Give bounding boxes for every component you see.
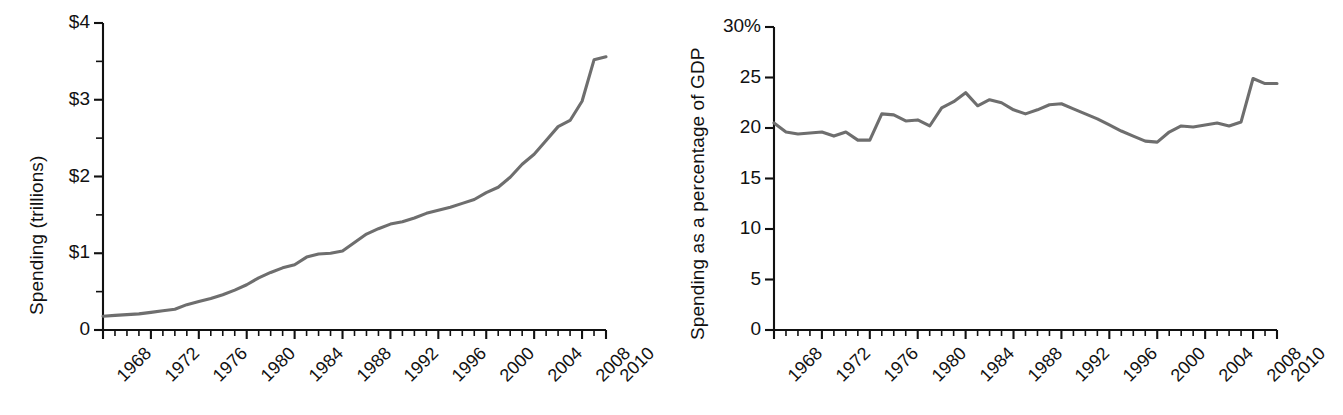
y-tick-label: $1 <box>69 241 90 263</box>
chart-panel-spending-pct-gdp: Spending as a percentage of GDP 05101520… <box>671 0 1343 415</box>
figure-container: Spending (trillions) 0$1$2$3$41968197219… <box>0 0 1343 415</box>
y-tick-label: 30% <box>723 15 761 37</box>
data-series-line <box>103 57 606 316</box>
y-tick-label: 5 <box>750 268 761 290</box>
data-series-line <box>774 79 1277 143</box>
y-tick-label: 25 <box>740 66 761 88</box>
y-tick-label: $3 <box>69 88 90 110</box>
plot-area-right: 051015202530%196819721976198019841988199… <box>671 0 1343 415</box>
y-tick-label: $2 <box>69 165 90 187</box>
y-tick-label: 0 <box>750 318 761 340</box>
y-tick-label: 10 <box>740 217 761 239</box>
y-tick-label: 20 <box>740 116 761 138</box>
y-tick-label: 0 <box>79 318 90 340</box>
y-tick-label: $4 <box>69 11 90 33</box>
y-tick-label: 15 <box>740 167 761 189</box>
chart-panel-spending-trillions: Spending (trillions) 0$1$2$3$41968197219… <box>0 0 672 415</box>
plot-area-left: 0$1$2$3$41968197219761980198419881992199… <box>0 0 672 415</box>
